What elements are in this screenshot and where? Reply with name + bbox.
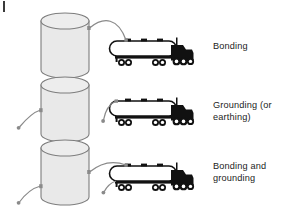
tank-terminal <box>87 170 90 174</box>
tank-terminal <box>39 184 42 188</box>
figure-canvas: Bonding Grounding (or earthing) Bonding … <box>0 0 297 212</box>
row-grounding <box>17 77 194 142</box>
trailer-terminal <box>124 163 127 166</box>
tank-ground-wire <box>20 186 41 202</box>
label-grounding: Grounding (or earthing) <box>213 100 272 123</box>
trailer-terminal <box>115 99 118 102</box>
storage-tank <box>41 77 89 142</box>
tank-ground-wire <box>20 110 41 127</box>
ground-point <box>102 191 106 195</box>
row-bonding <box>41 13 194 78</box>
ground-point <box>17 126 21 130</box>
truck-ground-wire <box>104 181 116 192</box>
storage-tank <box>41 140 89 205</box>
tank-terminal <box>39 108 42 112</box>
storage-tank <box>41 13 89 78</box>
label-bonding: Bonding <box>213 41 248 53</box>
ground-point <box>101 119 105 123</box>
label-bonding-and-grounding: Bonding and grounding <box>213 161 266 184</box>
tank-truck <box>110 98 195 126</box>
bonding-wire <box>90 21 127 40</box>
ground-point <box>17 201 21 205</box>
tank-terminal <box>87 26 90 30</box>
tank-truck <box>110 38 195 66</box>
tank-truck <box>110 163 195 191</box>
trailer-terminal <box>124 38 127 41</box>
row-bonding-and-grounding <box>17 140 194 205</box>
